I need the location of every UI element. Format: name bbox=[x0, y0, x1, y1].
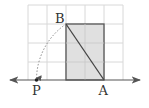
point-P-dot bbox=[35, 78, 39, 82]
label-A: A bbox=[98, 83, 109, 98]
label-P: P bbox=[32, 83, 41, 98]
dotted-arc-B-to-P bbox=[37, 24, 67, 78]
geometry-diagram: B A P bbox=[0, 0, 149, 108]
label-B: B bbox=[55, 11, 65, 26]
